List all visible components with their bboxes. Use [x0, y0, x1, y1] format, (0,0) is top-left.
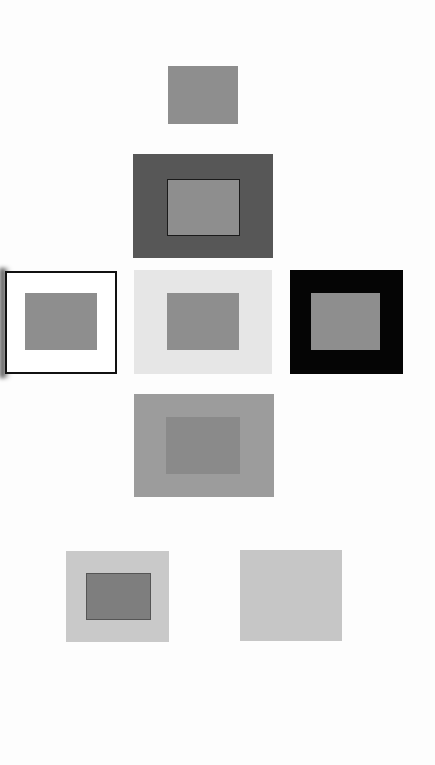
- white-surround-panel: [5, 271, 117, 374]
- test-gray-square: [25, 293, 97, 350]
- black-surround-panel: [290, 270, 403, 374]
- test-gray-square: [166, 417, 240, 474]
- dark-gray-surround-panel: [133, 154, 273, 258]
- uniform-gray-field: [240, 550, 342, 641]
- mid-gray-surround-panel: [134, 394, 274, 497]
- pale-gray-surround-panel: [66, 551, 169, 642]
- isolated-gray-square: [168, 66, 238, 124]
- test-gray-square: [167, 293, 239, 350]
- test-gray-square: [167, 179, 240, 236]
- darker-gray-square: [86, 573, 151, 620]
- test-gray-square: [311, 293, 380, 350]
- light-gray-surround-panel: [134, 270, 272, 374]
